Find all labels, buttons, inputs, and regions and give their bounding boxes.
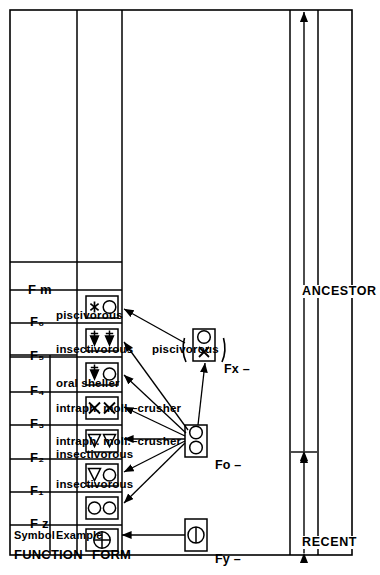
example-f2-line1: insectivorous [56,449,133,461]
example-f1: insectivorous [56,479,133,491]
function-header: FUNCTION [14,548,83,561]
recent-label: RECENT [299,536,360,549]
ancestor-label-fo: Fo – [215,459,242,472]
symbol-f5: F₅ [30,349,44,362]
symbol-fz: F z [30,517,49,530]
symbol-f6: F₆ [30,315,44,328]
timescale-arrows [291,12,317,553]
ancestor-label: ANCESTOR [299,285,380,298]
symbol-f1: F₁ [30,484,44,497]
symbol-f2: F₂ [30,451,44,464]
symbol-fm: F m [28,283,52,296]
example-f2-line2: intraph. moll.–crusher [56,436,181,448]
symbol-f4: F₄ [30,384,45,397]
example-f5-insectivorous: insectivorous [56,344,133,356]
example-f5-piscivorous: piscivorous [152,344,219,356]
symbol-f3: F₃ [30,417,44,430]
example-f3: intraph. moll.–crusher [56,403,181,415]
table-frame [10,10,352,555]
ancestor-glyphs [183,331,225,543]
symbol-header: Symbol [14,530,55,541]
ancestor-label-fy: Fy – [215,553,241,566]
table-rules [10,10,318,555]
example-header: Example [56,530,103,541]
form-header: FORM [92,548,131,561]
ancestor-label-fx: Fx – [224,363,250,376]
example-f4: oral sheller [56,378,120,390]
ancestor-boxes [185,329,215,551]
example-f6: piscivorous [56,310,123,322]
